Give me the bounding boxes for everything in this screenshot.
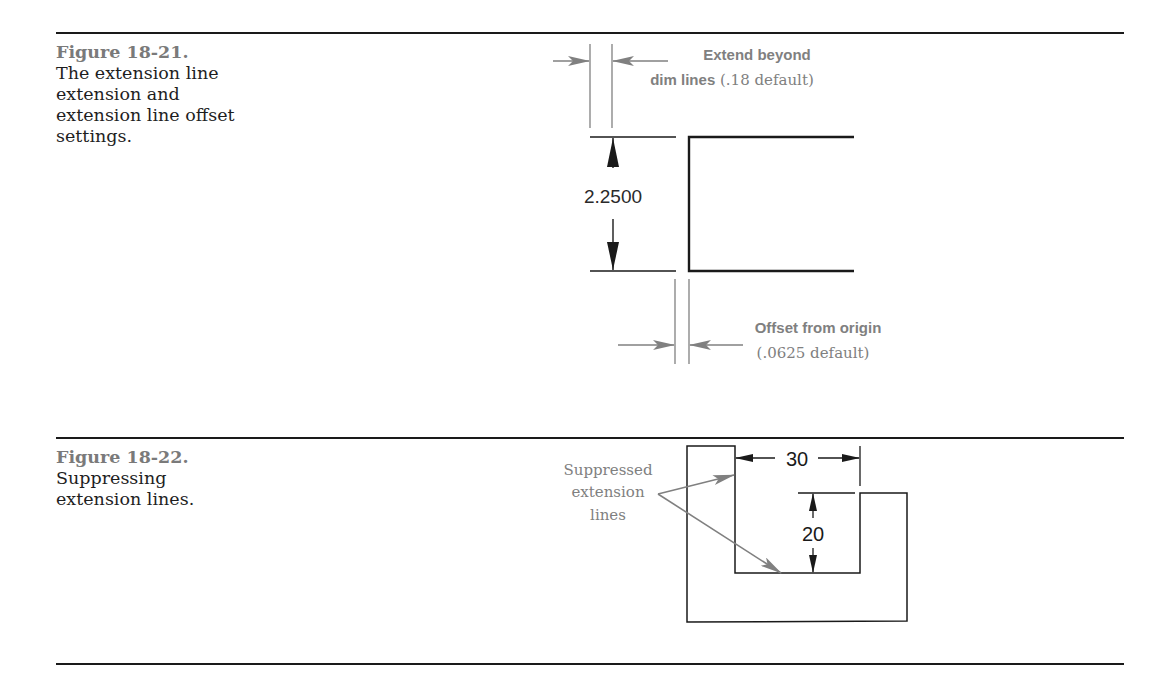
suppressed-label-line2: extension [571, 483, 644, 501]
extend-label-line1: Extend beyond [703, 46, 811, 63]
extend-label-line2: dim lines (.18 default) [650, 71, 814, 89]
figure-18-21-drawing: 2.2500 Extend beyond dim lines (.18 defa… [553, 44, 881, 364]
technical-drawings: 2.2500 Extend beyond dim lines (.18 defa… [0, 0, 1172, 680]
dimension-arrow-down-icon [607, 242, 619, 270]
object-outline [689, 137, 854, 271]
offset-label-line2: (.0625 default) [757, 344, 870, 362]
offset-label-line1: Offset from origin [755, 319, 882, 336]
dimension-20: 20 [802, 523, 824, 545]
dimension-30: 30 [786, 448, 808, 470]
dimension-arrow-up-icon [607, 138, 619, 167]
leader-arrow-lower-icon [658, 494, 781, 573]
suppressed-label-line3: lines [590, 506, 626, 524]
suppressed-label-line1: Suppressed [563, 461, 652, 479]
figure-18-22-drawing: 30 20 Suppressed extension lines [563, 446, 907, 622]
dimension-value: 2.2500 [584, 186, 642, 207]
leader-arrow-upper-icon [658, 475, 734, 494]
